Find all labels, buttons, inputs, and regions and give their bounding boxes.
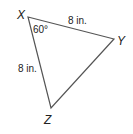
angle-x-measure: 60° xyxy=(33,24,48,35)
vertex-y-label: Y xyxy=(117,34,126,48)
side-xz-length: 8 in. xyxy=(18,63,37,74)
side-xy-length: 8 in. xyxy=(68,15,87,26)
triangle-diagram: X Y Z 8 in. 8 in. 60° xyxy=(0,0,133,134)
vertex-x-label: X xyxy=(16,8,26,22)
vertex-z-label: Z xyxy=(43,113,52,127)
